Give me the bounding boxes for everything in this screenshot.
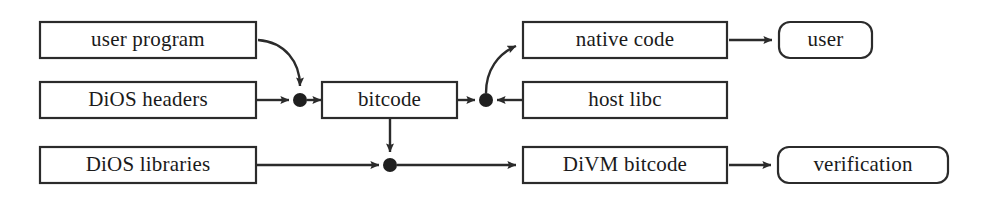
flow-diagram: user program DiOS headers DiOS libraries… xyxy=(0,0,987,203)
node-native-code-label: native code xyxy=(576,27,674,51)
junction-bitcode-in xyxy=(293,93,307,107)
diagram-canvas: user program DiOS headers DiOS libraries… xyxy=(0,0,987,203)
node-verification-label: verification xyxy=(813,152,912,176)
node-user[interactable]: user xyxy=(779,22,872,58)
node-bitcode[interactable]: bitcode xyxy=(322,82,457,118)
node-user-program-label: user program xyxy=(91,27,205,51)
node-native-code[interactable]: native code xyxy=(523,22,727,58)
node-bitcode-label: bitcode xyxy=(358,87,421,111)
node-divm-bitcode-label: DiVM bitcode xyxy=(563,152,687,176)
junction-bitcode-out xyxy=(479,93,493,107)
edge-user-program-to-junction-in xyxy=(258,40,300,86)
node-host-libc-label: host libc xyxy=(588,87,662,111)
node-dios-libraries-label: DiOS libraries xyxy=(86,152,211,176)
node-dios-headers[interactable]: DiOS headers xyxy=(40,82,256,118)
junction-lowering xyxy=(383,158,397,172)
edge-junction-out-to-native-code xyxy=(486,46,516,93)
node-dios-libraries[interactable]: DiOS libraries xyxy=(40,147,256,183)
node-user-program[interactable]: user program xyxy=(40,22,256,58)
node-user-label: user xyxy=(808,27,844,51)
node-host-libc[interactable]: host libc xyxy=(523,82,727,118)
node-divm-bitcode[interactable]: DiVM bitcode xyxy=(523,147,727,183)
node-verification[interactable]: verification xyxy=(778,147,948,183)
node-dios-headers-label: DiOS headers xyxy=(88,87,208,111)
